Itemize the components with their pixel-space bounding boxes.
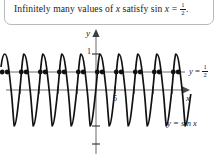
caption-middle: satisfy sin xyxy=(120,3,165,14)
y-axis-arrowhead xyxy=(92,29,99,37)
intersection-dot xyxy=(57,70,62,75)
level-line-label-fraction: 12 xyxy=(202,64,207,78)
intersection-dot xyxy=(0,70,5,75)
y-tick-label-one: 1 xyxy=(87,47,91,56)
intersection-dot xyxy=(157,70,162,75)
fraction-numerator: 1 xyxy=(202,64,207,71)
x-tick-label-five: 5 xyxy=(113,94,117,103)
intersection-dot xyxy=(76,70,81,75)
intersection-dot xyxy=(81,70,86,75)
intersection-dot xyxy=(171,70,176,75)
caption-prefix: Infinitely many values of xyxy=(14,3,116,14)
intersection-dot xyxy=(19,70,24,75)
sine-plot: y x 1 5 y = 12 y = sin x xyxy=(0,26,220,157)
intersection-dot xyxy=(38,70,43,75)
caption-equals: = xyxy=(169,3,180,14)
intersection-dot xyxy=(62,70,67,75)
figure-panel: Infinitely many values of x satisfy sin … xyxy=(0,0,220,157)
sine-curve-label: y = sin x xyxy=(167,118,197,128)
intersection-dot xyxy=(95,70,100,75)
caption-text: Infinitely many values of x satisfy sin … xyxy=(14,2,210,16)
fraction-denominator: 2 xyxy=(180,9,185,17)
level-line-label: y = 12 xyxy=(189,64,208,78)
caption-box: Infinitely many values of x satisfy sin … xyxy=(4,0,214,25)
y-axis-label: y xyxy=(86,28,90,38)
intersection-dot xyxy=(100,70,105,75)
intersection-dot xyxy=(152,70,157,75)
level-line-label-equals: = xyxy=(193,66,202,76)
fraction-numerator: 1 xyxy=(180,2,185,9)
caption-period: . xyxy=(186,3,189,14)
intersection-dot xyxy=(114,70,119,75)
fraction-denominator: 2 xyxy=(202,71,207,79)
intersection-dot xyxy=(138,70,143,75)
intersection-dot xyxy=(119,70,124,75)
intersection-dot xyxy=(5,70,10,75)
intersection-dot xyxy=(43,70,48,75)
plot-canvas xyxy=(0,26,220,157)
intersection-dot xyxy=(133,70,138,75)
x-axis-label: x xyxy=(186,93,190,103)
caption-fraction-one-half: 12 xyxy=(180,2,185,16)
intersection-dot xyxy=(24,70,29,75)
intersection-dot xyxy=(176,70,181,75)
